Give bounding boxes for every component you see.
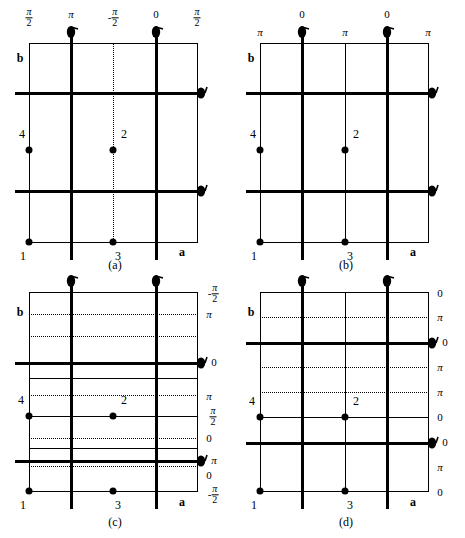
panel-d-right-label-1: π — [437, 311, 443, 323]
atom-label: 4 — [19, 127, 25, 142]
twofold-axis-horizontal — [15, 460, 205, 463]
panel-c-right-label-8: -π2 — [208, 484, 219, 505]
atom-label: 1 — [20, 249, 26, 264]
panel-d-right-label-0: 0 — [437, 287, 443, 299]
twofold-axis-vertical — [70, 32, 73, 260]
mirror-plane-line — [29, 448, 198, 449]
atom-dot — [110, 488, 117, 495]
twofold-axis-vertical — [301, 281, 304, 509]
glide-plane-dotted — [29, 314, 198, 315]
atom-label: 4 — [18, 393, 24, 408]
twofold-axis-horizontal — [246, 342, 436, 345]
panel-b-top-label-0: π — [257, 26, 263, 38]
panel-c-right-label-1: π — [206, 308, 212, 320]
panel-c-right-label-4: π2 — [209, 406, 216, 427]
panel-a-top-label-1: π — [68, 8, 74, 20]
panel-d-axis-a-label: a — [410, 495, 416, 510]
twofold-axis-vertical — [155, 32, 158, 260]
atom-label: 2 — [121, 127, 127, 142]
glide-plane-dotted — [260, 367, 429, 368]
screw-axis-icon — [426, 84, 440, 102]
atom-dot — [342, 239, 349, 246]
atom-dot — [26, 239, 33, 246]
panel-d-axis-b-label: b — [248, 305, 255, 320]
panel-c-right-label-0: -π2 — [208, 283, 219, 304]
twofold-axis-horizontal — [246, 92, 436, 95]
panel-c-right-label-6: π — [211, 454, 217, 466]
panel-a: π2 π -π2 0 π2 — [0, 0, 232, 270]
panel-c-axis-b-label: b — [17, 305, 24, 320]
atom-label: 3 — [347, 498, 353, 513]
twofold-axis-horizontal — [15, 92, 205, 95]
panel-c-right-label-7: 0 — [206, 469, 212, 481]
panel-c-right-label-2: 0 — [211, 356, 217, 368]
glide-plane-dotted — [260, 392, 429, 393]
twofold-axis-vertical — [345, 43, 346, 243]
panel-c-right-label-5: 0 — [206, 432, 212, 444]
twofold-axis-horizontal — [15, 362, 205, 365]
panel-b-top-label-4: π — [425, 26, 431, 38]
panel-d-right-label-7: π — [437, 461, 443, 473]
twofold-axis-vertical — [301, 32, 304, 260]
panel-a-top-label-2: -π2 — [108, 7, 119, 28]
twofold-axis-vertical — [386, 281, 389, 509]
atom-dot — [110, 147, 117, 154]
panel-a-axis-b-label: b — [17, 51, 24, 66]
screw-axis-vertical-dotted — [113, 43, 114, 243]
screw-axis-icon — [195, 354, 209, 372]
panel-c-axis-a-label: a — [179, 495, 185, 510]
panel-d-right-label-3: π — [437, 361, 443, 373]
atom-dot — [342, 147, 349, 154]
atom-label: 1 — [20, 498, 26, 513]
panel-b: π 0 π 0 π b a 4 2 — [232, 0, 465, 270]
atom-dot — [110, 239, 117, 246]
twofold-axis-horizontal — [15, 190, 205, 193]
panel-d-right-label-2: 0 — [442, 336, 448, 348]
atom-label: 4 — [249, 394, 255, 409]
panel-b-axis-b-label: b — [248, 51, 255, 66]
panel-d-right-label-6: 0 — [442, 436, 448, 448]
twofold-axis-vertical — [386, 32, 389, 260]
panel-b-axis-a-label: a — [410, 245, 416, 260]
panel-d-caption: (d) — [326, 515, 366, 530]
atom-dot — [257, 488, 264, 495]
panel-d-right-label-5: π — [437, 386, 443, 398]
panel-d: 0 π 0 π 0 π 0 π 0 b a 4 2 1 3 (d) — [232, 270, 465, 538]
panel-c-right-label-3: π — [206, 390, 212, 402]
panel-d-right-label-8: 0 — [437, 486, 443, 498]
atom-dot — [26, 413, 33, 420]
glide-plane-dotted — [29, 466, 198, 467]
atom-dot — [342, 488, 349, 495]
screw-axis-icon — [426, 334, 440, 352]
atom-dot — [257, 147, 264, 154]
glide-plane-dotted — [260, 317, 429, 318]
glide-plane-dotted — [29, 395, 198, 396]
panel-a-top-label-4: π2 — [193, 7, 200, 28]
atom-label: 2 — [353, 394, 359, 409]
atom-label: 4 — [250, 127, 256, 142]
twofold-axis-horizontal — [246, 190, 436, 193]
panel-a-axis-a-label: a — [179, 245, 185, 260]
glide-plane-dotted — [29, 336, 198, 337]
panel-d-right-label-4: 0 — [437, 411, 443, 423]
panel-a-top-label-3: 0 — [153, 8, 159, 20]
atom-dot — [342, 414, 349, 421]
panel-a-top-label-0: π2 — [25, 7, 32, 28]
atom-label: 2 — [353, 127, 359, 142]
screw-axis-icon — [195, 84, 209, 102]
panel-b-top-label-2: π — [342, 26, 348, 38]
screw-axis-icon — [426, 182, 440, 200]
twofold-axis-horizontal — [246, 442, 436, 445]
mirror-plane-line — [29, 378, 198, 379]
atom-dot — [257, 414, 264, 421]
panel-b-top-label-1: 0 — [299, 8, 305, 20]
space-group-figure: π2 π -π2 0 π2 — [0, 0, 465, 538]
panel-c-caption: (c) — [95, 515, 135, 530]
panel-c: -π2 π 0 π π2 0 π 0 -π2 b a 4 2 1 3 (c) — [0, 270, 232, 538]
screw-axis-icon — [195, 452, 209, 470]
atom-label: 2 — [121, 393, 127, 408]
atom-label: 3 — [115, 498, 121, 513]
atom-label: 1 — [251, 249, 257, 264]
atom-label: 1 — [251, 498, 257, 513]
screw-axis-icon — [195, 182, 209, 200]
